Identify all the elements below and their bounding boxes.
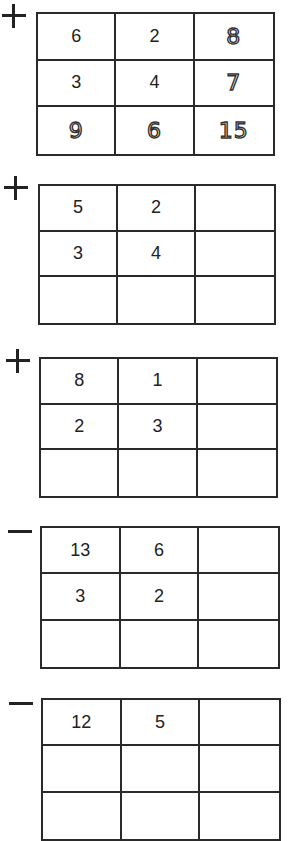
number-grid: 5 2 3 4 [38, 184, 276, 325]
dotted-answer-cell[interactable]: 8 [195, 14, 273, 61]
grid-cell: 2 [41, 405, 119, 451]
grid-cell: 3 [40, 232, 118, 278]
grid-cell: 6 [121, 528, 200, 574]
answer-cell[interactable] [118, 277, 196, 323]
answer-cell[interactable] [198, 450, 276, 496]
answer-cell[interactable] [198, 405, 276, 451]
grid-cell [43, 746, 122, 792]
dotted-answer-cell[interactable]: 9 [38, 107, 116, 154]
answer-cell[interactable] [199, 528, 278, 574]
grid-cell: 6 [38, 14, 116, 61]
number-grid: 13 6 3 2 [40, 526, 280, 669]
grid-cell: 4 [116, 61, 194, 108]
answer-cell[interactable] [122, 793, 201, 839]
answer-cell[interactable] [196, 277, 274, 323]
number-grid: 8 1 2 3 [39, 357, 278, 498]
grid-cell: 4 [118, 232, 196, 278]
dotted-answer-cell[interactable]: 15 [195, 107, 273, 154]
answer-cell[interactable] [199, 574, 278, 620]
plus-sign-icon [2, 4, 26, 28]
answer-cell[interactable] [43, 793, 122, 839]
grid-cell: 1 [119, 359, 197, 405]
minus-sign-icon [8, 520, 32, 544]
grid-cell: 2 [116, 14, 194, 61]
answer-cell[interactable] [40, 277, 118, 323]
grid-cell: 8 [41, 359, 119, 405]
grid-cell: 2 [121, 574, 200, 620]
answer-cell[interactable] [196, 186, 274, 232]
answer-cell[interactable] [196, 232, 274, 278]
plus-sign-icon [6, 349, 30, 373]
answer-cell[interactable] [199, 621, 278, 667]
grid-cell: 3 [42, 574, 121, 620]
grid-cell: 12 [43, 700, 122, 746]
grid-cell: 5 [122, 700, 201, 746]
grid-cell: 3 [119, 405, 197, 451]
answer-cell[interactable] [198, 359, 276, 405]
answer-cell[interactable] [121, 621, 200, 667]
answer-cell[interactable] [41, 450, 119, 496]
dotted-answer-cell[interactable]: 6 [116, 107, 194, 154]
grid-cell: 13 [42, 528, 121, 574]
answer-cell[interactable] [200, 700, 279, 746]
plus-sign-icon [4, 176, 28, 200]
answer-cell[interactable] [200, 793, 279, 839]
grid-cell: 3 [38, 61, 116, 108]
number-grid: 12 5 [41, 698, 281, 841]
answer-cell[interactable] [119, 450, 197, 496]
grid-cell [122, 746, 201, 792]
grid-cell: 5 [40, 186, 118, 232]
minus-sign-icon [9, 692, 33, 716]
answer-cell[interactable] [200, 746, 279, 792]
number-grid: 6 2 8 3 4 7 9 6 15 [36, 12, 275, 156]
grid-cell: 2 [118, 186, 196, 232]
dotted-answer-cell[interactable]: 7 [195, 61, 273, 108]
answer-cell[interactable] [42, 621, 121, 667]
